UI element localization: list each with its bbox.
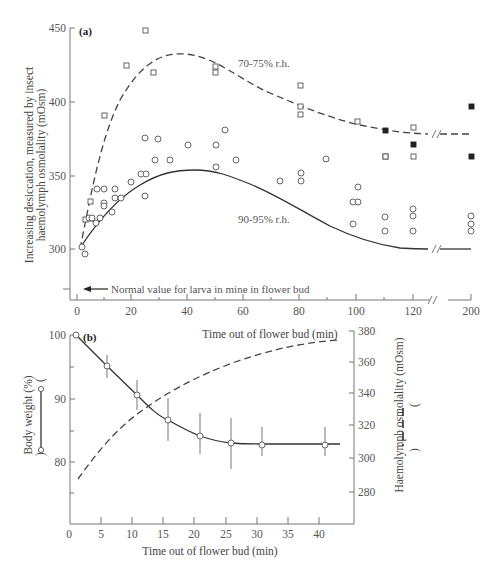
panel-a-xtick-0: 0 (74, 305, 80, 317)
panel-b-rtick-360: 360 (358, 356, 376, 368)
normal-value-label: Normal value for larva in mine in flower… (111, 283, 310, 295)
panel-a-xtick-100: 100 (347, 305, 365, 317)
panel-a-ytick-350: 350 (49, 170, 67, 182)
panel-b-xtick-35: 35 (282, 528, 294, 540)
panel-b-ytick-90: 90 (55, 393, 67, 405)
panel-b-left-axis-title: Body weight (%) (22, 375, 35, 454)
panel-a-xtick-20: 20 (125, 305, 137, 317)
panel-a-x-axis-title: Time out of flower bud (min) (202, 328, 337, 341)
panel-b-xtick-30: 30 (251, 528, 263, 540)
arrow-left-icon (83, 286, 91, 292)
panel-b-rtick-320: 320 (358, 419, 376, 431)
panel-b-rtick-340: 340 (358, 387, 376, 399)
panel-b-rtick-300: 300 (358, 452, 376, 464)
panel-b-xtick-5: 5 (98, 528, 104, 540)
osmolality-curve (78, 340, 338, 479)
svg-text:(: ( (408, 403, 421, 407)
panel-a-xtick-40: 40 (181, 305, 193, 317)
legend-solid-circle-icon: ( ) (34, 378, 47, 456)
figure: 450 400 350 300 0 20 40 60 80 100 120 20… (0, 0, 489, 578)
label-70-75-rh: 70-75% r.h. (238, 57, 290, 69)
panel-b: 100 90 80 380 360 340 320 300 280 0 5 10… (22, 325, 421, 558)
label-90-95-rh: 90-95% r.h. (238, 213, 290, 225)
panel-a-ytick-300: 300 (49, 243, 67, 255)
legend-dashed-icon: ( ) (403, 403, 421, 452)
svg-text:(: ( (34, 378, 47, 382)
panel-a-xtick-60: 60 (237, 305, 249, 317)
panel-a: 450 400 350 300 0 20 40 60 80 100 120 20… (23, 22, 480, 341)
panel-a-ytick-400: 400 (49, 96, 67, 108)
panel-a-ytick-450: 450 (49, 22, 67, 34)
panel-b-xtick-25: 25 (220, 528, 232, 540)
panel-b-right-axis-title: Haemolymph osmolality (mOsm) (393, 337, 406, 492)
panel-a-xtick-200: 200 (462, 305, 480, 317)
svg-text:): ) (408, 448, 421, 452)
panel-b-xtick-0: 0 (66, 528, 72, 540)
panel-a-xtick-120: 120 (404, 305, 422, 317)
panel-a-label: (a) (79, 25, 92, 38)
panel-b-rtick-280: 280 (358, 486, 376, 498)
panel-b-xtick-10: 10 (126, 528, 138, 540)
panel-b-xtick-40: 40 (313, 528, 325, 540)
panel-b-label: (b) (83, 331, 97, 344)
panel-b-xtick-20: 20 (188, 528, 200, 540)
panel-b-xtick-15: 15 (157, 528, 169, 540)
panel-a-xtick-80: 80 (293, 305, 305, 317)
panel-b-ytick-100: 100 (49, 329, 67, 341)
body-weight-curve (76, 335, 340, 444)
panel-b-x-axis-title: Time out of flower bud (min) (142, 545, 277, 558)
panel-a-y-axis-title-line2: haemolymph osmolality (mOsm) (35, 88, 48, 241)
panel-b-rtick-380: 380 (358, 325, 376, 337)
panel-b-ytick-80: 80 (55, 456, 67, 468)
